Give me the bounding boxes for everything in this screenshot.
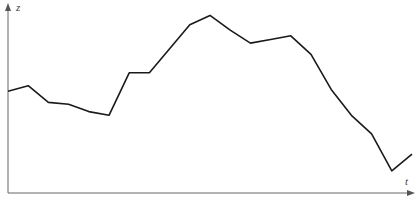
y-axis	[5, 3, 11, 193]
y-axis-arrow-icon	[5, 3, 11, 11]
data-line	[8, 15, 412, 170]
y-axis-label: z	[16, 1, 20, 13]
line-chart	[0, 0, 416, 201]
x-axis-label: t	[405, 175, 408, 187]
x-axis	[8, 190, 415, 196]
x-axis-arrow-icon	[407, 190, 415, 196]
